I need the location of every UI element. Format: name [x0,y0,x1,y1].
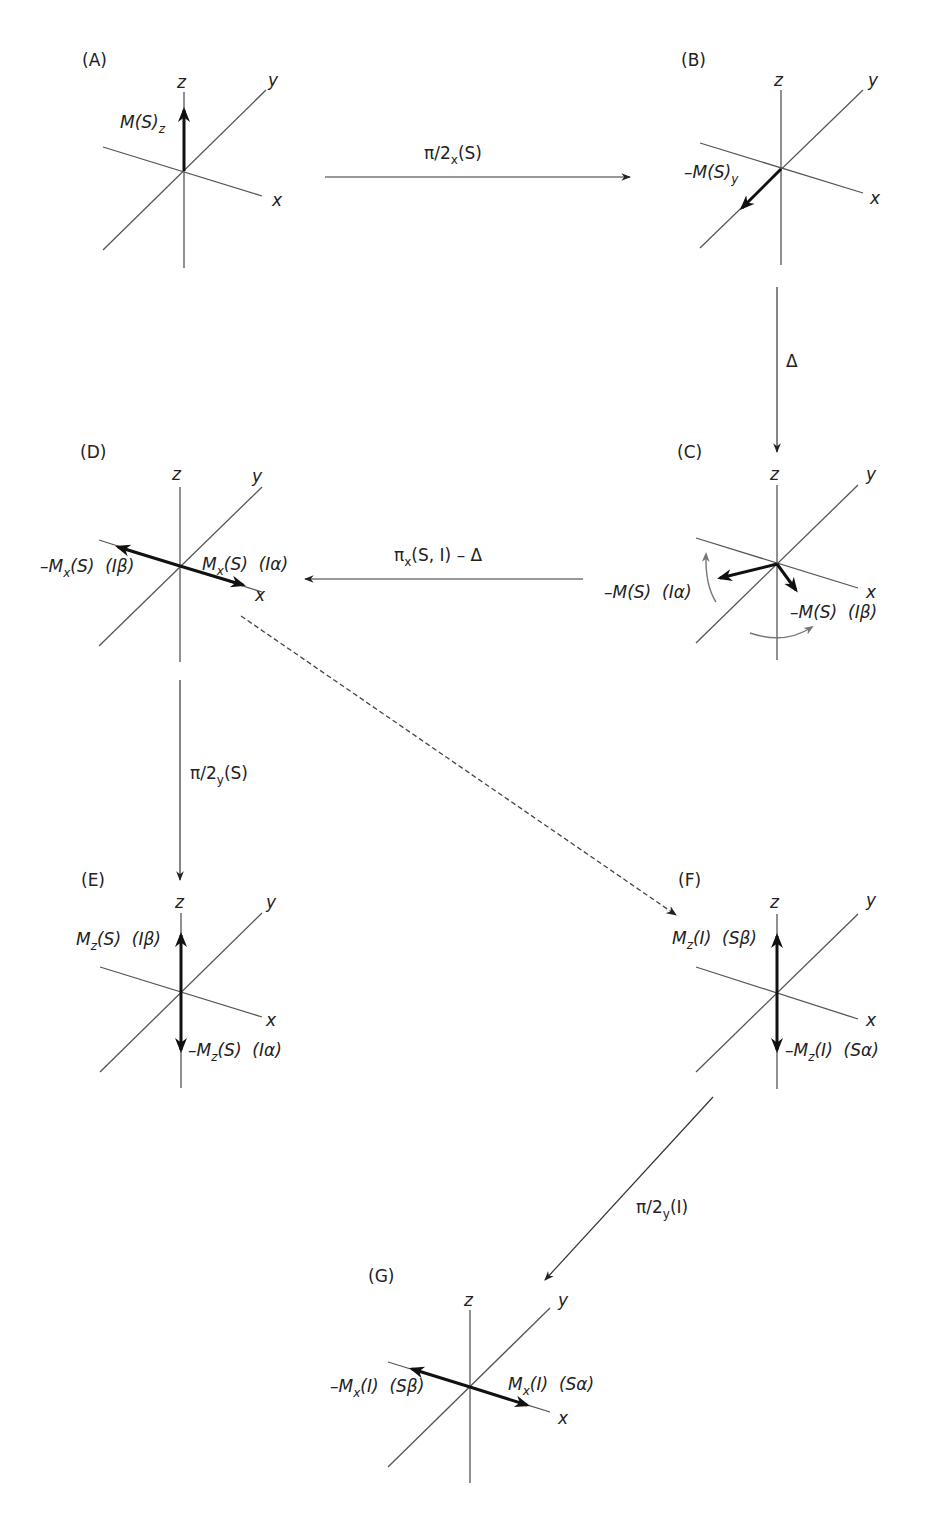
vector-label-b: –M(S)y [684,162,738,186]
vector-label-d-right: Mx(S) (Iα) [202,554,288,578]
axis-label-y: y [252,466,262,486]
axis-label-z: z [774,70,783,90]
vector-label-e-up: Mz(S) (Iβ) [76,929,161,953]
vector-label-g-left: –Mx(I) (Sβ) [330,1376,424,1400]
axis-label-z: z [177,72,186,92]
axis-label-y: y [268,70,278,90]
vector-label-f-down: –Mz(I) (Sα) [785,1040,879,1064]
axis-label-x: x [866,582,876,602]
axis-label-x: x [866,1010,876,1030]
dashed-arrow-d-to-f [241,616,676,915]
transition-label-b-c: Δ [786,351,798,371]
panel-label-f: (F) [678,870,701,890]
panel-label-d: (D) [80,442,106,462]
transition-label-d-e: π/2y(S) [190,763,248,787]
transition-label-f-g: π/2y(I) [636,1197,688,1221]
axis-label-z: z [770,464,779,484]
vector-label-e-down: –Mz(S) (Iα) [188,1040,282,1064]
axis-label-x: x [870,188,880,208]
axis-label-y: y [266,892,276,912]
axis-label-y: y [866,890,876,910]
axis-label-x: x [266,1010,276,1030]
transition-label-a-b: π/2x(S) [424,143,482,167]
rotation-arrow-left [706,554,716,602]
vector-b [742,169,781,208]
axis-label-z: z [770,892,779,912]
axis-label-x: x [272,190,282,210]
vector-label-c-left: –M(S) (Iα) [604,582,692,602]
axis-label-z: z [172,464,181,484]
panel-label-b: (B) [681,50,706,70]
axis-label-x: x [255,585,265,605]
axis-label-z: z [175,892,184,912]
vector-label-a: M(S)z [120,112,165,136]
axis-label-y: y [866,464,876,484]
panel-label-a: (A) [82,50,107,70]
vector-label-g-right: Mx(I) (Sα) [508,1374,594,1398]
vector-c-left [720,564,777,578]
vector-label-d-left: –Mx(S) (Iβ) [40,556,134,580]
arrow-f-to-g [545,1097,713,1280]
panel-label-e: (E) [81,870,105,890]
axis-label-y: y [868,70,878,90]
vector-label-f-up: Mz(I) (Sβ) [672,928,757,952]
axis-label-z: z [464,1290,473,1310]
transition-label-c-d: πx(S, I) – Δ [394,545,482,569]
vector-label-c-right: –M(S) (Iβ) [790,602,877,622]
axis-label-x: x [558,1408,568,1428]
panel-label-g: (G) [368,1266,394,1286]
axis-label-y: y [558,1290,568,1310]
rotation-arrow-right [750,627,812,638]
panel-label-c: (C) [677,442,702,462]
panel-c-axes [696,485,858,660]
